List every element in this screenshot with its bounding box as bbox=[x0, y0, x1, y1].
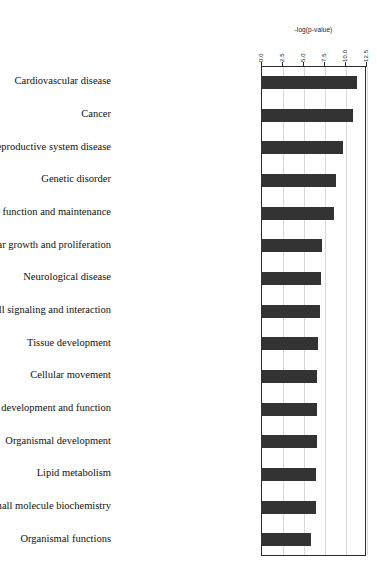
bar-chart: -log(p-value) 0.02.55.07.510.012.5 Cardi… bbox=[0, 0, 377, 584]
x-axis-tick bbox=[261, 62, 262, 67]
bar bbox=[261, 533, 311, 546]
bar bbox=[261, 337, 318, 350]
x-axis-tick-label: 0.0 bbox=[258, 53, 264, 62]
x-axis-tick bbox=[324, 62, 325, 67]
x-axis-tick bbox=[282, 62, 283, 67]
bar bbox=[261, 272, 321, 285]
category-label: Genetic disorder bbox=[41, 173, 117, 184]
bar bbox=[261, 109, 353, 122]
bar bbox=[261, 76, 357, 89]
category-label: Cellular function and maintenance bbox=[0, 206, 117, 217]
bar bbox=[261, 174, 336, 187]
x-axis-tick-label: 10.0 bbox=[342, 50, 348, 62]
x-axis-tick-labels: 0.02.55.07.510.012.5 bbox=[0, 40, 377, 62]
x-axis-tick-label: 12.5 bbox=[363, 50, 369, 62]
category-label: Cell-to-cell signaling and interaction bbox=[0, 304, 117, 315]
bar bbox=[261, 370, 317, 383]
category-label: Lipid metabolism bbox=[37, 467, 117, 478]
bar bbox=[261, 468, 316, 481]
bar bbox=[261, 501, 316, 514]
bars-layer bbox=[261, 66, 366, 556]
category-label: Cardiovascular system development and fu… bbox=[0, 402, 117, 413]
category-label: Organismal functions bbox=[20, 533, 117, 544]
category-label: Organismal development bbox=[5, 435, 117, 446]
bar bbox=[261, 207, 334, 220]
bar bbox=[261, 141, 343, 154]
bar bbox=[261, 239, 322, 252]
gridline bbox=[367, 67, 368, 555]
category-label: Cancer bbox=[81, 108, 117, 119]
bar bbox=[261, 403, 317, 416]
category-label: Small molecule biochemistry bbox=[0, 500, 117, 511]
x-axis-tick bbox=[366, 62, 367, 67]
category-label: Cardiovascular disease bbox=[14, 75, 117, 86]
category-label: Cellular growth and proliferation bbox=[0, 239, 117, 250]
x-axis-title: -log(p-value) bbox=[261, 26, 366, 33]
bar bbox=[261, 435, 317, 448]
x-axis-tick-label: 2.5 bbox=[279, 53, 285, 62]
category-label: Cellular movement bbox=[30, 369, 117, 380]
category-label: Neurological disease bbox=[23, 271, 117, 282]
x-axis-tick-label: 5.0 bbox=[300, 53, 306, 62]
category-label: Tissue development bbox=[27, 337, 117, 348]
x-axis-tick-label: 7.5 bbox=[321, 53, 327, 62]
x-axis-tick bbox=[303, 62, 304, 67]
x-axis-tick bbox=[345, 62, 346, 67]
bar bbox=[261, 305, 320, 318]
category-label: Reproductive system disease bbox=[0, 141, 117, 152]
